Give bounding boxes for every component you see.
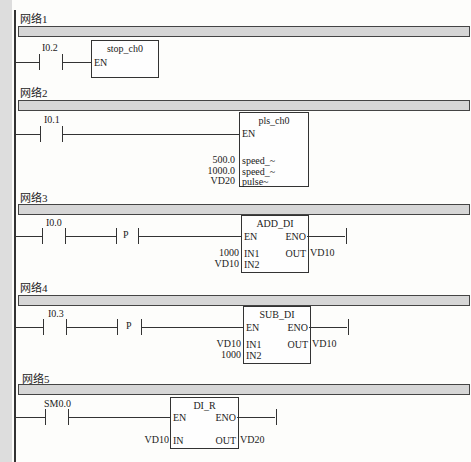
pin-in2: IN2: [244, 259, 260, 270]
input-value-in2: VD10: [215, 258, 239, 269]
pin-in: IN: [173, 435, 184, 446]
eno-terminator: [348, 319, 349, 335]
pin-out: OUT: [287, 339, 308, 350]
pin-out: OUT: [215, 435, 236, 446]
eno-terminator: [346, 228, 347, 244]
block-title: pls_ch0: [240, 115, 308, 126]
wire: [307, 236, 345, 237]
contact-left: [39, 54, 40, 70]
pin-in2: IN2: [246, 350, 262, 361]
contact-address: I0.2: [42, 42, 58, 53]
network-3-comment-bar[interactable]: [18, 204, 470, 215]
left-margin: [0, 0, 12, 462]
wire: [309, 327, 347, 328]
block-title: ADD_DI: [242, 218, 308, 229]
pin-eno: ENO: [285, 231, 306, 242]
contact-address: I0.1: [44, 114, 60, 125]
wire: [138, 236, 241, 237]
pin-pulse: pulse~: [242, 176, 269, 187]
pin-eno: ENO: [287, 322, 308, 333]
wire: [15, 417, 45, 418]
block-title: SUB_DI: [244, 309, 310, 320]
pin-en: EN: [246, 322, 259, 333]
pin-in1: IN1: [244, 248, 260, 259]
wire: [15, 62, 39, 63]
network-4-comment-bar[interactable]: [18, 295, 470, 306]
input-value-in1: 1000: [219, 247, 239, 258]
input-value-pulse: VD20: [211, 175, 235, 186]
wire: [141, 327, 243, 328]
input-value-in1: VD10: [217, 338, 241, 349]
contact-left: [45, 409, 46, 425]
network-5-comment-bar[interactable]: [18, 384, 470, 395]
block-title: stop_ch0: [92, 43, 158, 54]
pin-eno: ENO: [215, 412, 236, 423]
pin-out: OUT: [285, 248, 306, 259]
eno-terminator: [276, 409, 277, 425]
network-1-label: 网络1: [20, 10, 48, 26]
pin-en: EN: [173, 412, 186, 423]
positive-edge-label: P: [126, 320, 132, 331]
function-block-di-r[interactable]: DI_R EN IN ENO OUT: [170, 397, 239, 449]
output-value-out: VD10: [310, 247, 334, 258]
edge-left: [116, 228, 117, 244]
network-2-label: 网络2: [20, 84, 48, 100]
pin-in1: IN1: [246, 339, 262, 350]
function-block-pls-ch0[interactable]: pls_ch0 EN speed_~ speed_~ pulse~: [239, 112, 309, 187]
network-4-label: 网络4: [20, 279, 48, 295]
wire: [237, 417, 275, 418]
network-3-label: 网络3: [20, 189, 48, 205]
output-value-out: VD20: [240, 434, 264, 445]
contact-address: SM0.0: [44, 398, 71, 409]
output-value-out: VD10: [312, 338, 336, 349]
network-1-comment-bar[interactable]: [18, 26, 470, 37]
contact-left: [43, 319, 44, 335]
wire: [66, 327, 117, 328]
contact-left: [42, 228, 43, 244]
positive-edge-label: P: [123, 229, 129, 240]
function-block-sub-di[interactable]: SUB_DI EN IN1 IN2 ENO OUT: [243, 306, 311, 364]
input-value-speed-1: 500.0: [213, 154, 236, 165]
pin-en: EN: [242, 128, 255, 139]
pin-en: EN: [244, 231, 257, 242]
network-2-comment-bar[interactable]: [18, 100, 470, 111]
wire: [62, 134, 239, 135]
block-title: DI_R: [171, 400, 238, 411]
pin-en: EN: [94, 57, 107, 68]
function-block-stop-ch0[interactable]: stop_ch0 EN: [91, 40, 159, 78]
wire: [65, 236, 116, 237]
edge-left: [117, 319, 118, 335]
wire: [62, 62, 91, 63]
pin-speed-1: speed_~: [242, 155, 275, 166]
wire: [15, 236, 42, 237]
contact-address: I0.0: [46, 217, 62, 228]
contact-left: [40, 126, 41, 142]
input-value-in: VD10: [145, 434, 169, 445]
wire: [68, 417, 170, 418]
wire: [15, 327, 43, 328]
contact-address: I0.3: [48, 308, 64, 319]
input-value-in2: 1000: [221, 349, 241, 360]
function-block-add-di[interactable]: ADD_DI EN IN1 IN2 ENO OUT: [241, 215, 309, 273]
wire: [15, 134, 40, 135]
